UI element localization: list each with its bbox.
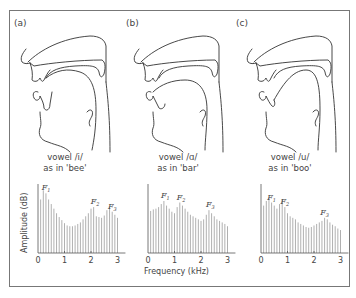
x-tick-label: 3 [113, 256, 123, 265]
x-tick-label: 3 [223, 256, 233, 265]
x-tick-label: 3 [336, 256, 346, 265]
formant-label: F3 [319, 208, 329, 218]
x-tick-label: 0 [33, 256, 43, 265]
x-tick-label: 1 [60, 256, 70, 265]
x-tick-label: 2 [196, 256, 206, 265]
formant-label: F2 [90, 197, 100, 207]
x-tick-label: 2 [309, 256, 319, 265]
x-tick-label: 0 [143, 256, 153, 265]
spectrum-c: F1F2F3 [261, 184, 348, 253]
x-tick-label: 0 [256, 256, 266, 265]
formant-label: F1 [160, 191, 170, 201]
formant-label: F2 [280, 197, 290, 207]
formant-label: F1 [41, 183, 51, 193]
spectrum-b: F1F2F3 [148, 184, 235, 253]
x-tick-label: 1 [170, 256, 180, 265]
spectrum-a: F1F2F3 [38, 183, 125, 253]
x-tick-label: 2 [86, 256, 96, 265]
formant-label: F3 [205, 200, 215, 210]
formant-label: F3 [107, 202, 117, 212]
x-tick-label: 1 [283, 256, 293, 265]
spectra-charts: F1F2F3F1F2F3F1F2F3 [0, 0, 356, 298]
formant-label: F1 [266, 193, 276, 203]
formant-label: F2 [176, 193, 186, 203]
x-axis-label: Frequency (kHz) [144, 267, 209, 276]
